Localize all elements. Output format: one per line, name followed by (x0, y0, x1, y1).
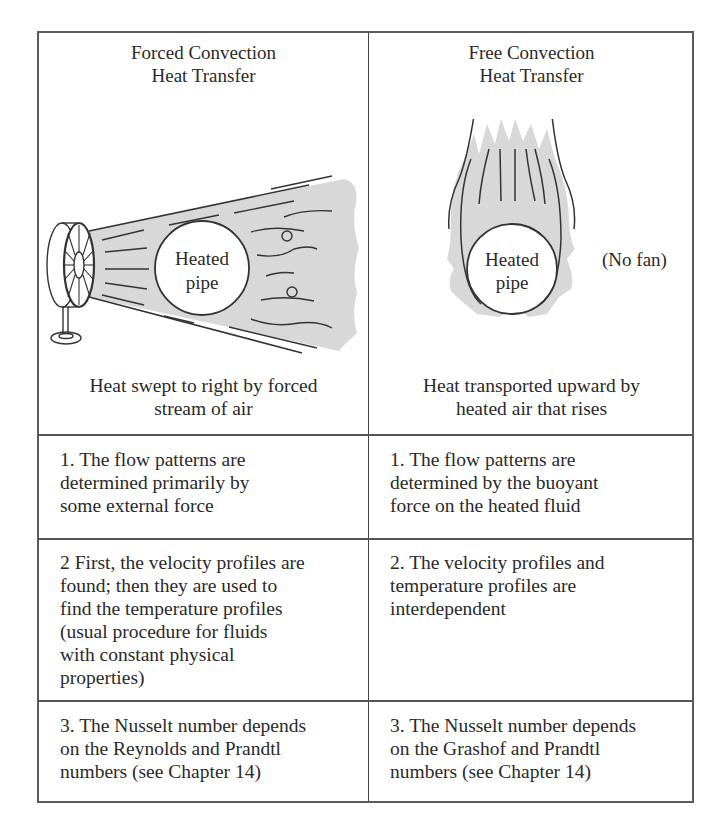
row-divider-2 (39, 538, 692, 540)
item-line: determined primarily by (75, 471, 250, 494)
item-line: 3. The Nusselt number depends (75, 714, 306, 737)
free-item-3: 3. The Nusselt number depends on the Gra… (375, 714, 636, 783)
free-pipe-label-line1: Heated (485, 249, 539, 270)
free-item-2: 2. The velocity profiles and temperature… (375, 551, 605, 620)
no-fan-note: (No fan) (602, 249, 667, 271)
item-line: temperature profiles are (405, 574, 605, 597)
item-line: numbers (see Chapter 14) (405, 760, 636, 783)
item-line: properties) (75, 666, 305, 689)
row-divider-1 (39, 434, 692, 436)
free-title: Free Convection Heat Transfer (369, 41, 694, 87)
comparison-table: Forced Convection Heat Transfer (37, 31, 694, 803)
free-convection-illustration: Heated pipe (429, 119, 599, 333)
item-line: 3. The Nusselt number depends (405, 714, 636, 737)
forced-convection-illustration: Heated pipe (39, 173, 368, 377)
free-pipe-label-line2: pipe (496, 272, 529, 293)
item-line: some external force (75, 494, 250, 517)
forced-convection-cell: Forced Convection Heat Transfer (39, 33, 368, 434)
free-caption-line2: heated air that rises (369, 397, 694, 420)
item-line: determined by the buoyant (405, 471, 598, 494)
item-line: force on the heated fluid (405, 494, 598, 517)
item-line: (usual procedure for fluids (75, 620, 305, 643)
item-line: interdependent (405, 597, 605, 620)
item-line: 2 First, the velocity profiles are (75, 551, 305, 574)
free-item-1: 1. The flow patterns are determined by t… (375, 448, 598, 517)
item-line: on the Reynolds and Prandtl (75, 737, 306, 760)
item-line: 2. The velocity profiles and (405, 551, 605, 574)
row-divider-3 (39, 700, 692, 702)
item-line: find the temperature profiles (75, 597, 305, 620)
free-caption-line1: Heat transported upward by (369, 374, 694, 397)
forced-title-line1: Forced Convection (39, 41, 368, 64)
free-title-line2: Heat Transfer (369, 64, 694, 87)
free-convection-cell: Free Convection Heat Transfer Hea (369, 33, 694, 434)
forced-item-3: 3. The Nusselt number depends on the Rey… (45, 714, 306, 783)
forced-item-2: 2 First, the velocity profiles are found… (45, 551, 305, 689)
free-caption: Heat transported upward by heated air th… (369, 374, 694, 420)
free-title-line1: Free Convection (369, 41, 694, 64)
item-line: 1. The flow patterns are (405, 448, 598, 471)
forced-title: Forced Convection Heat Transfer (39, 41, 368, 87)
item-line: on the Grashof and Prandtl (405, 737, 636, 760)
forced-caption-line2: stream of air (39, 397, 368, 420)
forced-pipe-label-line1: Heated (175, 248, 229, 269)
item-line: 1. The flow patterns are (75, 448, 250, 471)
item-line: with constant physical (75, 643, 305, 666)
forced-caption-line1: Heat swept to right by forced (39, 374, 368, 397)
fan-icon (47, 223, 94, 344)
forced-pipe-label-line2: pipe (186, 272, 219, 293)
forced-title-line2: Heat Transfer (39, 64, 368, 87)
item-line: found; then they are used to (75, 574, 305, 597)
forced-caption: Heat swept to right by forced stream of … (39, 374, 368, 420)
item-line: numbers (see Chapter 14) (75, 760, 306, 783)
forced-item-1: 1. The flow patterns are determined prim… (45, 448, 250, 517)
